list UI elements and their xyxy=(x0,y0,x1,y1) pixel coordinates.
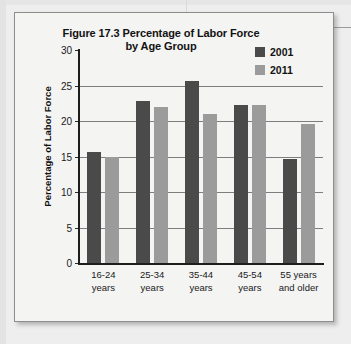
y-axis-tick-label: 20 xyxy=(61,116,72,127)
y-axis-tick-label: 25 xyxy=(61,80,72,91)
y-axis-tick-label: 0 xyxy=(66,258,72,269)
x-axis-category-labels: 16-24years25-34years35-44years45-54years… xyxy=(79,268,327,308)
bar-2001-35-44-years xyxy=(185,81,199,263)
bar-2011-25-34-years xyxy=(154,107,168,263)
chart-title-line-1: Figure 17.3 Percentage of Labor Force xyxy=(39,27,283,40)
x-axis-label-line: and older xyxy=(268,281,329,294)
y-axis-title: Percentage of Labor Force xyxy=(42,67,53,227)
page-fold-mark xyxy=(186,0,187,12)
bar-2001-45-54-years xyxy=(234,105,248,263)
chart-panel: Figure 17.3 Percentage of Labor Force by… xyxy=(14,12,334,322)
x-axis-line xyxy=(78,263,324,265)
y-axis-tick-label: 15 xyxy=(61,151,72,162)
bar-2011-55-years-and-older xyxy=(301,124,315,263)
plot-area: 051015202530 xyxy=(79,50,323,263)
page-edge-left xyxy=(0,0,6,344)
y-axis-tick-label: 30 xyxy=(61,45,72,56)
x-axis-label-55-years-and-older: 55 yearsand older xyxy=(268,268,329,294)
y-axis-tick-label: 10 xyxy=(61,187,72,198)
bar-2001-25-34-years xyxy=(136,101,150,263)
bar-2011-35-44-years xyxy=(203,114,217,263)
page-edge-top xyxy=(0,0,351,5)
y-axis-tick-label: 5 xyxy=(66,222,72,233)
bar-2011-16-24-years xyxy=(105,157,119,264)
y-axis-line xyxy=(78,49,80,264)
bars-layer xyxy=(79,50,323,263)
x-axis-label-line: 55 years xyxy=(268,268,329,281)
bar-2001-55-years-and-older xyxy=(283,159,297,263)
bar-2001-16-24-years xyxy=(87,152,101,263)
bar-2011-45-54-years xyxy=(252,105,266,263)
